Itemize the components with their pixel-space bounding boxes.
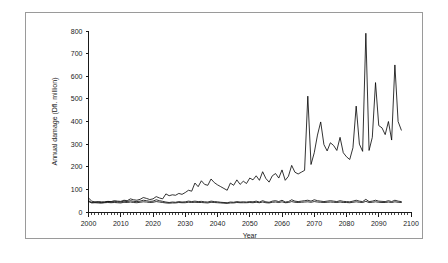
x-tick-label: 2080 — [339, 220, 355, 227]
y-tick-label: 500 — [71, 95, 83, 102]
x-tick-label: 2010 — [113, 220, 129, 227]
y-axis-title: Annual damage (Dfl. million) — [51, 78, 59, 166]
rising-damage-series — [89, 33, 402, 202]
x-tick-label: 2090 — [371, 220, 387, 227]
x-tick-label: 2100 — [403, 220, 419, 227]
x-tick-label: 2050 — [242, 220, 258, 227]
y-tick-label: 200 — [71, 163, 83, 170]
chart-figure: 0100200300400500600700800 20002010202020… — [0, 0, 448, 263]
x-tick-label: 2070 — [306, 220, 322, 227]
x-tick-label: 2030 — [177, 220, 193, 227]
data-series-group — [89, 33, 402, 203]
y-tick-label: 700 — [71, 50, 83, 57]
y-tick-label: 100 — [71, 186, 83, 193]
x-axis: 2000201020202030204020502060207020802090… — [81, 212, 419, 227]
y-tick-label: 800 — [71, 28, 83, 35]
y-tick-label: 400 — [71, 118, 83, 125]
y-axis: 0100200300400500600700800 — [71, 28, 89, 216]
x-axis-title: Year — [243, 232, 258, 239]
x-tick-label: 2060 — [274, 220, 290, 227]
y-tick-label: 300 — [71, 141, 83, 148]
x-tick-label: 2040 — [210, 220, 226, 227]
line-chart: 0100200300400500600700800 20002010202020… — [0, 0, 448, 263]
y-tick-label: 600 — [71, 73, 83, 80]
y-tick-label: 0 — [79, 209, 83, 216]
x-tick-label: 2000 — [81, 220, 97, 227]
x-tick-label: 2020 — [145, 220, 161, 227]
